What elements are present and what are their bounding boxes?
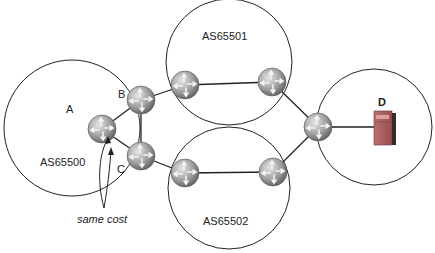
as65501-boundary (166, 0, 292, 125)
server-d-icon (374, 111, 396, 145)
as65502-label: AS65502 (203, 215, 248, 227)
router-destination-edge-icon (304, 113, 332, 141)
router-c-icon (127, 142, 155, 170)
router-b-icon (127, 86, 155, 114)
router-as65501-east-icon (258, 68, 286, 96)
server-d-label: D (378, 96, 386, 108)
router-b-label: B (118, 88, 125, 100)
as65500-label: AS65500 (40, 156, 85, 168)
arrow-head-to-c (108, 147, 114, 155)
same-cost-arrows (100, 139, 111, 208)
network-diagram: A B C D AS65500 AS65501 AS65502 same cos… (0, 0, 435, 253)
router-as65501-west-icon (171, 71, 199, 99)
as65501-label: AS65501 (202, 30, 247, 42)
router-c-label: C (117, 163, 125, 175)
as65500-boundary (4, 60, 140, 196)
router-a-label: A (66, 103, 74, 115)
router-a-icon (88, 115, 116, 143)
as65502-boundary (168, 127, 290, 249)
router-as65502-east-icon (259, 158, 287, 186)
same-cost-annotation: same cost (77, 213, 128, 225)
router-as65502-west-icon (171, 159, 199, 187)
